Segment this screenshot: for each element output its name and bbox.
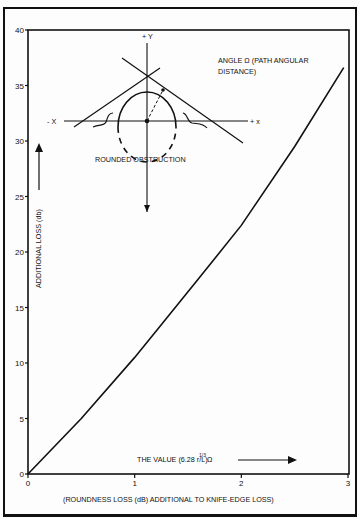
x-tick-label: 3 xyxy=(346,479,351,488)
plus-y-label: + Y xyxy=(142,32,153,41)
x-value-label: THE VALUE (6.28 r/L) xyxy=(137,455,208,464)
x-value-omega: Ω xyxy=(207,455,213,464)
plot-area xyxy=(28,30,349,474)
x-axis-ticks: 0123 xyxy=(26,474,351,488)
x-tick-label: 2 xyxy=(239,479,244,488)
y-tick-label: 5 xyxy=(20,415,25,424)
angle-label-line2: DISTANCE) xyxy=(218,67,256,76)
y-axis-label: ADDITIONAL LOSS (db) xyxy=(34,209,43,288)
y-tick-label: 0 xyxy=(20,470,25,479)
data-line xyxy=(28,68,344,474)
arrow-up-icon xyxy=(35,143,43,152)
y-tick-label: 20 xyxy=(15,248,24,257)
chart: 0510152025303540 0123 ADDITIONAL LOSS (d… xyxy=(0,0,360,519)
y-axis-ticks: 0510152025303540 xyxy=(15,26,28,479)
y-axis-label-group: ADDITIONAL LOSS (db) xyxy=(34,143,43,288)
x-value-exponent: 1/3 xyxy=(199,452,206,458)
x-axis-caption: (ROUNDNESS LOSS (dB) ADDITIONAL TO KNIFE… xyxy=(63,495,274,504)
minus-x-label: - X xyxy=(47,117,56,126)
y-tick-label: 35 xyxy=(15,82,24,91)
x-tick-label: 0 xyxy=(26,479,31,488)
plus-x-label: + x xyxy=(250,117,260,126)
x-tick-label: 1 xyxy=(132,479,137,488)
obstruction-label: ROUNDED OBSTRUCTION xyxy=(95,155,186,164)
arrow-down-icon xyxy=(144,205,150,212)
y-tick-label: 40 xyxy=(15,26,24,35)
y-tick-label: 10 xyxy=(15,359,24,368)
angle-label-line1: ANGLE Ω (PATH ANGULAR xyxy=(218,56,309,65)
x-value-annotation: THE VALUE (6.28 r/L) 1/3 Ω xyxy=(137,452,297,464)
y-tick-label: 30 xyxy=(15,137,24,146)
y-tick-label: 15 xyxy=(15,304,24,313)
y-tick-label: 25 xyxy=(15,193,24,202)
arrow-right-icon xyxy=(288,456,297,464)
